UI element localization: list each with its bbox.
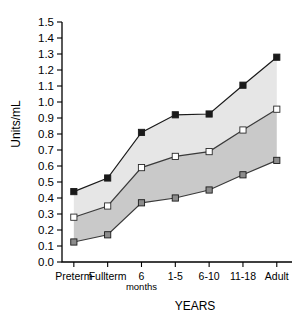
data-point-marker <box>105 203 111 209</box>
y-tick-label: 0.3 <box>38 208 54 220</box>
data-point-marker <box>172 195 178 201</box>
y-tick-label: 0.9 <box>38 112 54 124</box>
x-tick-label: Preterm <box>55 270 93 282</box>
data-point-marker <box>274 54 280 60</box>
y-tick-label: 1.5 <box>38 16 54 28</box>
y-tick-label: 0.7 <box>38 144 54 156</box>
data-point-marker <box>240 82 246 88</box>
data-point-marker <box>105 232 111 238</box>
data-point-marker <box>206 111 212 117</box>
data-point-marker <box>206 149 212 155</box>
chart-container: 0.00.10.20.30.40.50.60.70.80.91.01.11.21… <box>0 0 307 323</box>
x-axis: PretermFullterm6months1-56-1011-18Adult <box>55 262 289 292</box>
y-tick-label: 0.6 <box>38 160 54 172</box>
data-point-marker <box>172 153 178 159</box>
data-point-marker <box>138 165 144 171</box>
data-point-marker <box>71 189 77 195</box>
x-tick-label: Adult <box>265 270 289 282</box>
data-point-marker <box>172 112 178 118</box>
data-point-marker <box>240 172 246 178</box>
y-tick-label: 1.3 <box>38 48 54 60</box>
y-tick-label: 1.2 <box>38 64 54 76</box>
data-point-marker <box>206 187 212 193</box>
data-point-marker <box>71 214 77 220</box>
line-chart: 0.00.10.20.30.40.50.60.70.80.91.01.11.21… <box>0 0 307 323</box>
x-tick-label: 1-5 <box>168 270 183 282</box>
y-axis-title: Units/mL <box>9 100 23 148</box>
data-point-marker <box>240 127 246 133</box>
data-point-marker <box>71 239 77 245</box>
x-tick-label: 6-10 <box>199 270 220 282</box>
x-tick-sublabel: months <box>126 281 157 292</box>
y-tick-label: 0.2 <box>38 224 54 236</box>
y-axis: 0.00.10.20.30.40.50.60.70.80.91.01.11.21… <box>38 16 62 268</box>
x-tick-label: 11-18 <box>230 270 256 282</box>
data-point-marker <box>138 200 144 206</box>
y-tick-label: 1.4 <box>38 32 55 44</box>
y-tick-label: 0.0 <box>38 256 54 268</box>
data-point-marker <box>274 106 280 112</box>
y-tick-label: 0.8 <box>38 128 54 140</box>
y-tick-label: 0.1 <box>38 240 54 252</box>
data-point-marker <box>138 129 144 135</box>
x-axis-title: YEARS <box>175 299 216 313</box>
y-tick-label: 0.5 <box>38 176 54 188</box>
y-tick-label: 1.0 <box>38 96 54 108</box>
data-point-marker <box>274 157 280 163</box>
data-point-marker <box>105 175 111 181</box>
y-tick-label: 0.4 <box>38 192 55 204</box>
x-tick-label: Fullterm <box>89 270 127 282</box>
y-tick-label: 1.1 <box>38 80 54 92</box>
